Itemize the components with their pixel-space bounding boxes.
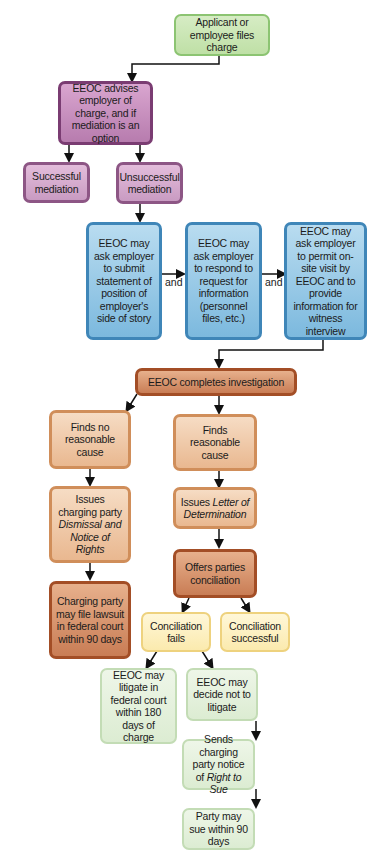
node-text: EEOC may decide not to litigate	[192, 676, 252, 714]
node-text: EEOC advises employer of charge, and if …	[65, 82, 146, 145]
node-text: EEOC may ask employer to submit statemen…	[93, 237, 155, 325]
node-text: Issues Letter of Determination	[180, 496, 250, 521]
node-completes-investigation: EEOC completes investigation	[135, 368, 297, 396]
node-text: EEOC may ask employer to permit on-site …	[291, 225, 360, 338]
text-italic: Right to Sue	[207, 771, 242, 796]
text-plain: Issues	[181, 496, 213, 508]
node-text: Unsuccessful mediation	[119, 171, 179, 196]
connector-label-and: and	[165, 276, 183, 288]
node-advises-employer: EEOC advises employer of charge, and if …	[58, 81, 153, 145]
node-files-charge: Applicant or employee files charge	[174, 14, 270, 56]
node-text: Offers parties conciliation	[180, 561, 250, 586]
node-text: EEOC completes investigation	[148, 376, 284, 389]
node-offers-conciliation: Offers parties conciliation	[173, 549, 257, 598]
node-text: Applicant or employee files charge	[180, 16, 264, 54]
node-text: Conciliation successful	[226, 620, 284, 645]
connector-label-and: and	[265, 276, 283, 288]
node-text: Conciliation fails	[147, 620, 205, 645]
node-dismissal-notice: Issues charging party Dismissal and Noti…	[49, 486, 131, 563]
node-submit-statement: EEOC may ask employer to submit statemen…	[86, 222, 162, 340]
node-file-lawsuit: Charging party may file lawsuit in feder…	[49, 581, 131, 659]
node-letter-of-determination: Issues Letter of Determination	[173, 487, 257, 529]
node-right-to-sue: Sends charging party notice of Right to …	[182, 739, 255, 790]
node-text: Issues charging party Dismissal and Noti…	[56, 493, 124, 556]
node-text: Sends charging party notice of Right to …	[188, 733, 249, 796]
node-text: Party may sue within 90 days	[188, 810, 249, 848]
node-text: EEOC may litigate in federal court withi…	[106, 669, 171, 744]
node-respond-request: EEOC may ask employer to respond to requ…	[185, 222, 262, 340]
node-onsite-visit: EEOC may ask employer to permit on-site …	[284, 222, 367, 340]
node-text: Finds no reasonable cause	[56, 421, 124, 459]
node-conciliation-successful: Conciliation successful	[220, 612, 290, 652]
text-italic: Dismissal and Notice of Rights	[59, 518, 122, 555]
node-text: Charging party may file lawsuit in feder…	[56, 595, 124, 645]
node-text: EEOC may ask employer to respond to requ…	[192, 237, 255, 325]
text-plain: Issues charging party	[58, 493, 122, 518]
node-successful-mediation: Successful mediation	[23, 162, 90, 203]
node-reasonable-cause: Finds reasonable cause	[173, 414, 257, 471]
node-text: Finds reasonable cause	[180, 424, 250, 462]
node-conciliation-fails: Conciliation fails	[141, 612, 211, 652]
node-may-litigate: EEOC may litigate in federal court withi…	[100, 668, 177, 744]
node-unsuccessful-mediation: Unsuccessful mediation	[116, 162, 183, 204]
node-party-may-sue: Party may sue within 90 days	[182, 808, 255, 850]
node-no-reasonable-cause: Finds no reasonable cause	[49, 410, 131, 469]
node-text: Successful mediation	[30, 170, 83, 195]
node-decide-not-litigate: EEOC may decide not to litigate	[186, 668, 258, 721]
